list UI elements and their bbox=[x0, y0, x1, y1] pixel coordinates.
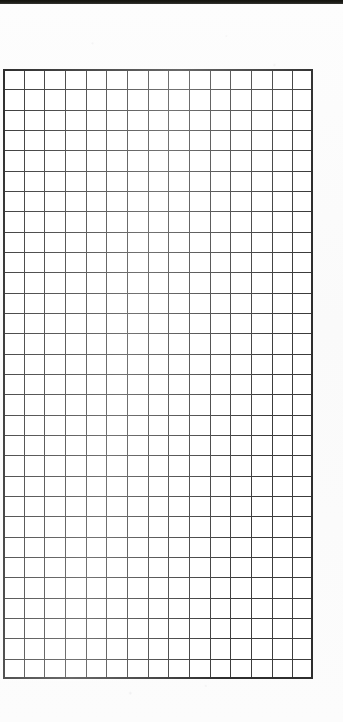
grid-lines bbox=[3, 69, 313, 679]
page-canvas bbox=[0, 0, 343, 722]
graph-paper-grid[interactable] bbox=[3, 69, 313, 679]
scan-edge-band bbox=[0, 0, 343, 4]
